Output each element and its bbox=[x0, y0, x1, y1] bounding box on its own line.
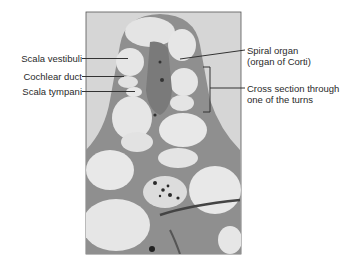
label-cross-section: Cross section through one of the turns bbox=[247, 83, 339, 105]
label-spiral-organ: Spiral organ (organ of Corti) bbox=[247, 45, 311, 67]
label-spiral-organ-line2: (organ of Corti) bbox=[247, 56, 311, 67]
cochlea-figure: Scala vestibuli Cochlear duct Scala tymp… bbox=[0, 0, 357, 267]
label-spiral-organ-line1: Spiral organ bbox=[247, 45, 311, 56]
label-cross-section-line2: one of the turns bbox=[247, 94, 339, 105]
right-leaders bbox=[0, 0, 357, 267]
label-cross-section-line1: Cross section through bbox=[247, 83, 339, 94]
